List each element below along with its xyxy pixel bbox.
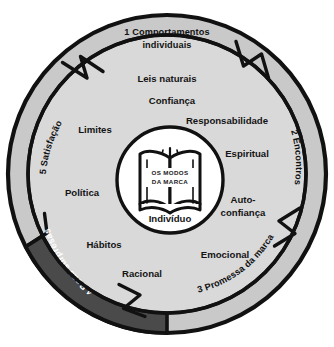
inner-label-habitos[interactable]: Hábitos [86,239,121,250]
inner-label-autoconfianca-line2[interactable]: confiança [221,207,266,218]
inner-label-confianca[interactable]: Confiança [149,95,196,106]
core-caption-individuo: Indivíduo [149,213,192,224]
brand-modes-diagram: 1 Comportamentos individuais 2 Encontros… [0,0,334,347]
inner-label-leis-naturais[interactable]: Leis naturais [137,73,196,84]
inner-label-responsabilidade[interactable]: Responsabilidade [186,115,268,126]
core-title-line2: DA MARCA [152,178,188,185]
inner-label-limites[interactable]: Limites [78,124,112,135]
core-title-line1: OS MODOS [152,169,189,176]
outer-label-1-line2: individuais [142,40,191,50]
core-circle-group[interactable]: OS MODOS DA MARCA Indivíduo [117,127,223,233]
inner-label-politica[interactable]: Política [65,187,100,198]
inner-label-racional[interactable]: Racional [122,268,162,279]
inner-label-emocional[interactable]: Emocional [201,249,250,260]
inner-label-autoconfianca-line1[interactable]: Auto- [230,194,255,205]
inner-label-espiritual[interactable]: Espiritual [225,148,269,159]
diagram-root: 1 Comportamentos individuais 2 Encontros… [0,0,334,347]
